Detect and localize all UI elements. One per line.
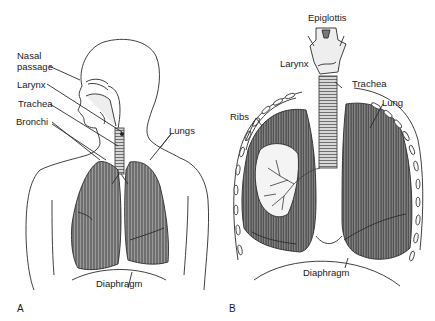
panel-letter-a: A [17, 303, 24, 314]
label-lung-b: Lung [382, 98, 403, 108]
label-nasal-passage-line2: passage [17, 62, 53, 72]
label-nasal-passage-line1: Nasal [17, 51, 41, 61]
diagram-artwork [0, 0, 435, 321]
label-diaphragm-b: Diaphragm [303, 268, 349, 278]
label-lungs-a: Lungs [169, 126, 195, 136]
label-larynx-b: Larynx [280, 59, 309, 69]
label-bronchi-a: Bronchi [16, 117, 48, 127]
label-ribs: Ribs [230, 112, 249, 122]
panel-b-artwork [234, 28, 423, 286]
label-larynx-a: Larynx [17, 80, 46, 90]
label-trachea-b: Trachea [352, 79, 387, 89]
panel-letter-b: B [229, 303, 236, 314]
label-diaphragm-a: Diaphragm [96, 279, 142, 289]
label-trachea-a: Trachea [18, 99, 53, 109]
respiratory-diagram: Nasal passage Larynx Trachea Bronchi Lun… [0, 0, 435, 321]
panel-a-artwork [26, 39, 209, 290]
label-epiglottis: Epiglottis [308, 13, 347, 23]
